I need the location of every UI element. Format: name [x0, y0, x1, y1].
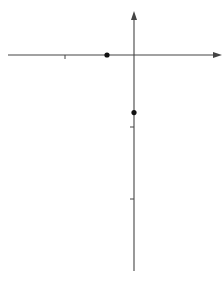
- y-axis-arrow-icon: [131, 11, 137, 20]
- vertex-point: [104, 52, 109, 57]
- graph: [0, 0, 224, 288]
- x-axis-arrow-icon: [213, 52, 222, 58]
- y-intercept-point: [131, 110, 136, 115]
